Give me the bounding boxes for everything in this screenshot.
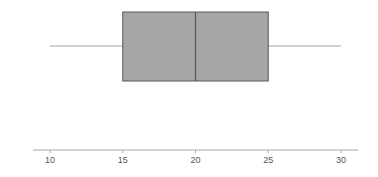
x-tick-label: 20 (190, 155, 200, 165)
plot-area (50, 12, 341, 81)
x-tick-label: 15 (118, 155, 128, 165)
x-tick-label: 10 (45, 155, 55, 165)
x-axis-ticks: 1015202530 (45, 150, 346, 165)
x-tick-label: 30 (336, 155, 346, 165)
boxplot-chart: 1015202530 (0, 0, 378, 177)
x-tick-label: 25 (263, 155, 273, 165)
